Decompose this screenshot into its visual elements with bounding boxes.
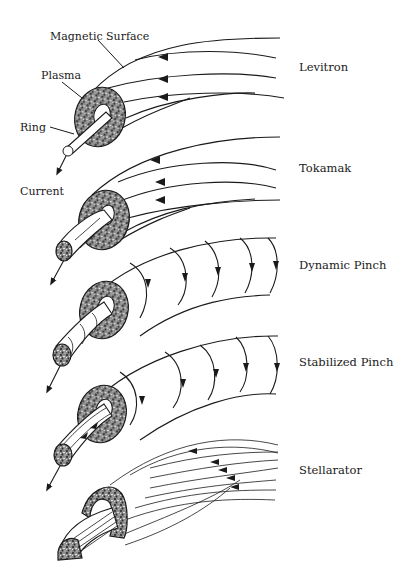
stabilized-pinch-arrow-icon [243, 363, 249, 372]
stellarator-arrow-icon [226, 475, 235, 481]
stellarator-field-line [125, 488, 230, 545]
plasma-leader [62, 82, 82, 98]
levitron-field-line [126, 93, 255, 118]
config-label-dynamic-pinch: Dynamic Pinch [299, 258, 387, 272]
tokamak-field-line [118, 163, 276, 182]
stabilized-pinch-surface-bottom [140, 394, 276, 440]
config-label-tokamak: Tokamak [299, 161, 352, 175]
dynamic-pinch-loop [130, 263, 147, 318]
plasma-label: Plasma [41, 69, 82, 82]
stellarator-illustration [58, 440, 278, 560]
dynamic-pinch-arrow-icon [273, 261, 279, 270]
stellarator-arrow-icon [218, 467, 227, 473]
stellarator-field-line [150, 452, 278, 468]
ring-label: Ring [20, 121, 46, 134]
magnetic-surface-leader [98, 40, 124, 68]
config-label-stellarator: Stellarator [299, 463, 362, 477]
levitron-field-line [122, 98, 190, 128]
levitron-arrow-icon [158, 75, 168, 83]
tokamak-arrow-icon [155, 196, 165, 204]
stellarator-field-line [122, 480, 240, 535]
stellarator-field-line [125, 499, 275, 520]
levitron-field-line [124, 93, 284, 102]
stellarator-column-end [58, 539, 82, 561]
stellarator-arrow-icon [230, 484, 239, 490]
stabilized-pinch-column-end [54, 444, 72, 466]
tokamak-current-arrow-icon [52, 260, 64, 282]
stellarator-field-line [110, 440, 278, 485]
dynamic-pinch-current-arrow-icon [48, 366, 60, 390]
stabilized-pinch-current-arrow-icon [48, 466, 60, 488]
stellarator-field-line [150, 468, 278, 488]
tokamak-column-end [56, 241, 72, 261]
stellarator-arrow-icon [188, 448, 197, 454]
dynamic-pinch-illustration [48, 238, 279, 390]
tokamak-field-line [92, 137, 280, 195]
levitron-arrow-icon [158, 93, 168, 101]
stabilized-pinch-arrow-icon [274, 363, 280, 372]
dynamic-pinch-arrow-icon [182, 273, 188, 282]
tokamak-field-line [120, 208, 190, 240]
stabilized-pinch-illustration [48, 336, 280, 488]
dynamic-pinch-arrow-icon [215, 267, 221, 276]
levitron-field-line [92, 38, 280, 92]
stabilized-pinch-loop [165, 352, 181, 408]
current-label: Current [20, 185, 65, 198]
tokamak-illustration [52, 137, 280, 282]
stellarator-field-line [145, 480, 276, 498]
stabilized-pinch-arrow-icon [139, 396, 145, 405]
config-label-stabilized-pinch: Stabilized Pinch [299, 355, 394, 369]
stellarator-field-line [130, 447, 278, 475]
dynamic-pinch-column-end [53, 344, 71, 366]
stellarator-arrow-icon [210, 459, 219, 465]
magnetic-surface-label: Magnetic Surface [50, 30, 149, 43]
levitron-ring-end [63, 146, 73, 156]
dynamic-pinch-surface-bottom [140, 295, 270, 336]
ring-leader [50, 127, 74, 134]
levitron-field-line [108, 74, 276, 88]
stabilized-pinch-arrow-icon [213, 369, 219, 378]
current-arrow-icon [58, 156, 66, 172]
confinement-configurations-diagram: Magnetic Surface Plasma Ring Current Lev… [0, 0, 405, 585]
stabilized-pinch-loop [200, 345, 215, 400]
config-label-levitron: Levitron [299, 60, 349, 74]
tokamak-field-line [128, 200, 280, 218]
levitron-illustration [50, 38, 284, 172]
tokamak-arrow-icon [155, 178, 165, 186]
dynamic-pinch-arrow-icon [249, 263, 255, 272]
